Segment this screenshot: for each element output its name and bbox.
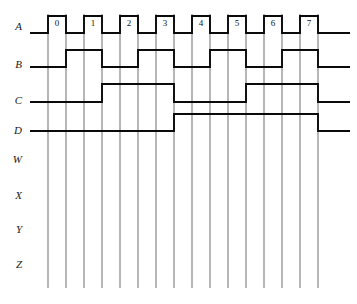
- signal-label-b: B: [0, 59, 22, 70]
- signal-label-x: X: [0, 190, 22, 201]
- waveform-d: [30, 114, 350, 131]
- pulse-number: 4: [194, 19, 208, 28]
- waveform-canvas: [0, 0, 357, 304]
- signal-label-w: W: [0, 154, 22, 165]
- pulse-number: 7: [302, 19, 316, 28]
- pulse-number: 2: [122, 19, 136, 28]
- pulse-number: 1: [86, 19, 100, 28]
- pulse-number: 0: [50, 19, 64, 28]
- waveforms-group: [30, 16, 350, 131]
- timing-diagram: ABCDWXYZ 01234567: [0, 0, 357, 304]
- pulse-number: 6: [266, 19, 280, 28]
- gridlines-group: [48, 14, 318, 288]
- signal-label-c: C: [0, 95, 22, 106]
- waveform-b: [30, 50, 350, 67]
- signal-label-d: D: [0, 125, 22, 136]
- waveform-c: [30, 84, 350, 102]
- signal-label-a: A: [0, 21, 22, 32]
- signal-label-z: Z: [0, 259, 22, 270]
- pulse-number: 3: [158, 19, 172, 28]
- signal-label-y: Y: [0, 224, 22, 235]
- pulse-number: 5: [230, 19, 244, 28]
